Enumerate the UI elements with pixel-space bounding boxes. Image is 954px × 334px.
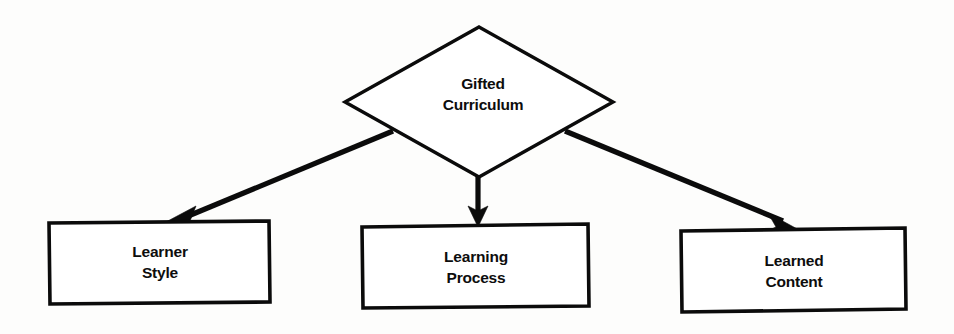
- diagram-canvas: Gifted Curriculum Learner Style Learning…: [0, 0, 954, 334]
- node-label-learner-style-line1: Learner: [132, 243, 188, 260]
- node-label-learned-content-line2: Content: [765, 273, 822, 290]
- connector-to-learning-process: [468, 176, 488, 227]
- node-learning-process: Learning Process: [362, 224, 589, 308]
- node-learned-content: Learned Content: [681, 228, 906, 312]
- node-label-gifted-curriculum-line1: Gifted: [461, 75, 505, 92]
- node-label-learning-process-line1: Learning: [444, 248, 508, 265]
- concept-map-diagram: Gifted Curriculum Learner Style Learning…: [0, 0, 954, 334]
- node-label-learner-style-line2: Style: [142, 264, 179, 281]
- node-gifted-curriculum: Gifted Curriculum: [345, 27, 613, 177]
- connector-line-right: [565, 131, 783, 221]
- rectangle-shape-learner-style: [49, 221, 270, 304]
- node-learner-style: Learner Style: [49, 221, 270, 304]
- node-label-learned-content-line1: Learned: [765, 252, 824, 269]
- node-label-gifted-curriculum-line2: Curriculum: [443, 96, 524, 113]
- connector-to-learned-content: [565, 131, 801, 231]
- node-label-learning-process-line2: Process: [447, 269, 506, 286]
- connector-to-learner-style: [164, 131, 393, 226]
- rectangle-shape-learned-content: [681, 228, 906, 312]
- connector-line-left: [181, 131, 393, 219]
- rectangle-shape-learning-process: [362, 224, 589, 308]
